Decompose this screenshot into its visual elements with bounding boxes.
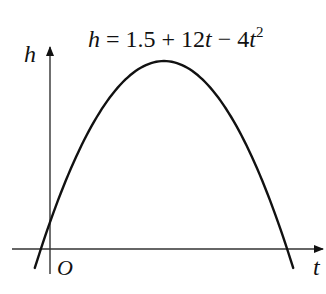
- origin-label: O: [57, 255, 73, 280]
- parabola-curve: [35, 61, 293, 268]
- t-axis-label: t: [313, 254, 321, 280]
- equation-label: h = 1.5 + 12t − 4t2: [88, 24, 263, 52]
- parabola-chart: h t O h = 1.5 + 12t − 4t2: [0, 0, 326, 294]
- h-axis-label: h: [24, 41, 36, 67]
